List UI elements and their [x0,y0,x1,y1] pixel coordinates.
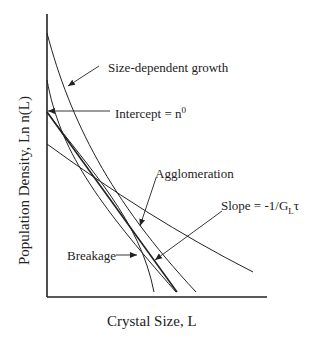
slope-line [47,112,177,292]
y-axis-label: Population Density, Ln n(L) [16,96,33,265]
slope-label: Slope = -1/GLτ [221,199,299,216]
size-growth-arrow [68,66,99,86]
intercept-text: Intercept = n [115,106,182,121]
x-axis-label: Crystal Size, L [107,313,197,330]
agglomeration-label: Agglomeration [155,167,234,180]
slope-arrow [155,211,222,260]
slope-text: Slope = -1/G [221,198,288,213]
breakage-curve [47,112,154,292]
intercept-label: Intercept = n0 [115,106,186,120]
agglomeration-arrow [140,178,156,226]
size-dependent-growth-label: Size-dependent growth [108,61,228,74]
slope-tau: τ [294,198,299,213]
breakage-label: Breakage [67,249,116,262]
intercept-superscript: 0 [182,105,187,115]
